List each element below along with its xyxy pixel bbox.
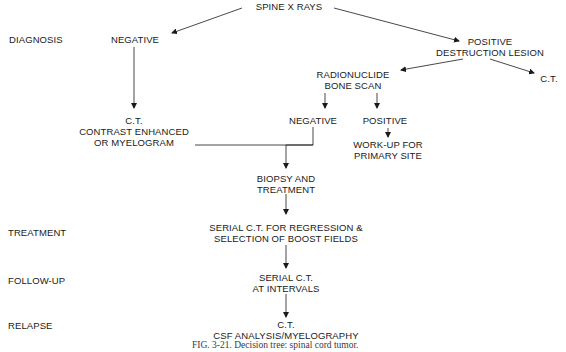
node-serial-intervals-line2: AT INTERVALS	[236, 283, 336, 294]
node-workup-line2: PRIMARY SITE	[347, 150, 429, 161]
node-workup-primary-site: WORK-UP FOR PRIMARY SITE	[347, 139, 429, 161]
node-positive-line2: DESTRUCTION LESION	[430, 47, 550, 58]
node-scan-negative: NEGATIVE	[288, 115, 338, 126]
node-ct-contrast-line1: C.T.	[74, 115, 194, 126]
node-biopsy-line2: TREATMENT	[251, 184, 321, 195]
stage-label-treatment: TREATMENT	[8, 227, 66, 238]
node-workup-line1: WORK-UP FOR	[347, 139, 429, 150]
node-serial-ct-regression: SERIAL C.T. FOR REGRESSION & SELECTION O…	[196, 222, 376, 244]
node-positive-destruction-lesion: POSITIVE DESTRUCTION LESION	[430, 36, 550, 58]
node-ct-right: C.T.	[535, 73, 563, 84]
figure-caption: FIG. 3-21. Decision tree: spinal cord tu…	[192, 340, 358, 350]
decision-tree-figure: DIAGNOSIS TREATMENT FOLLOW-UP RELAPSE SP…	[0, 0, 566, 352]
node-radionuclide-line2: BONE SCAN	[308, 80, 398, 91]
edge-root-negative	[172, 8, 242, 33]
node-scan-positive: POSITIVE	[360, 115, 410, 126]
node-radionuclide-line1: RADIONUCLIDE	[308, 69, 398, 80]
node-biopsy-line1: BIOPSY AND	[251, 173, 321, 184]
node-serial-regression-line1: SERIAL C.T. FOR REGRESSION &	[196, 222, 376, 233]
node-ct-contrast-line3: OR MYELOGRAM	[74, 137, 194, 148]
node-relapse-line1: C.T.	[196, 319, 376, 330]
node-biopsy-treatment: BIOPSY AND TREATMENT	[251, 173, 321, 195]
node-radionuclide-bone-scan: RADIONUCLIDE BONE SCAN	[308, 69, 398, 91]
edge-positive-ct	[490, 59, 534, 73]
node-negative: NEGATIVE	[105, 34, 165, 45]
node-ct-csf-myelography: C.T. CSF ANALYSIS/MYELOGRAPHY	[196, 319, 376, 341]
edge-positive-radionuclide	[401, 59, 463, 70]
node-serial-regression-line2: SELECTION OF BOOST FIELDS	[196, 233, 376, 244]
node-serial-ct-intervals: SERIAL C.T. AT INTERVALS	[236, 272, 336, 294]
node-ct-contrast-myelogram: C.T. CONTRAST ENHANCED OR MYELOGRAM	[74, 115, 194, 148]
node-spine-x-rays: SPINE X RAYS	[244, 1, 334, 12]
node-serial-intervals-line1: SERIAL C.T.	[236, 272, 336, 283]
node-ct-contrast-line2: CONTRAST ENHANCED	[74, 126, 194, 137]
stage-label-follow-up: FOLLOW-UP	[8, 275, 65, 286]
node-positive-line1: POSITIVE	[430, 36, 550, 47]
edge-scan-negative-merge	[286, 127, 313, 145]
stage-label-relapse: RELAPSE	[8, 320, 53, 331]
stage-label-diagnosis: DIAGNOSIS	[9, 34, 63, 45]
